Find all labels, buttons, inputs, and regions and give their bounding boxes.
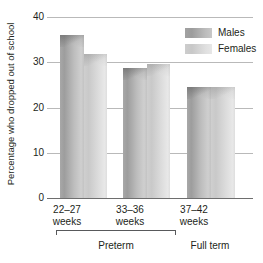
x-axis-label-line2: weeks bbox=[101, 216, 159, 228]
x-axis-label-37-42-weeks: 37–42 weeks bbox=[165, 204, 223, 228]
y-tick-label-20: 20 bbox=[4, 103, 44, 113]
group-label-preterm: Preterm bbox=[86, 240, 146, 252]
y-tick-label-40: 40 bbox=[4, 12, 44, 22]
x-axis-baseline bbox=[47, 198, 253, 199]
y-tick-label-10: 10 bbox=[4, 148, 44, 158]
bar-males-22-27-weeks bbox=[60, 35, 84, 198]
x-axis-label-line1: 22–27 bbox=[38, 204, 96, 216]
y-tick-label-30: 30 bbox=[4, 57, 44, 67]
legend-item-males: Males bbox=[185, 25, 263, 41]
bar-top-shading bbox=[84, 54, 107, 66]
bar-top-shading bbox=[211, 87, 235, 99]
x-axis-label-line2: weeks bbox=[165, 216, 223, 228]
bar-females-33-36-weeks bbox=[147, 64, 170, 198]
x-axis-label-line2: weeks bbox=[38, 216, 96, 228]
legend-item-females: Females bbox=[185, 41, 263, 57]
bar-females-37-42-weeks bbox=[211, 87, 235, 198]
bar-males-33-36-weeks bbox=[123, 68, 147, 198]
legend-label-females: Females bbox=[218, 41, 256, 57]
x-axis-label-22-27-weeks: 22–27 weeks bbox=[38, 204, 96, 228]
bar-males-37-42-weeks bbox=[187, 87, 211, 198]
legend: Males Females bbox=[185, 25, 263, 57]
x-axis-label-line1: 33–36 bbox=[101, 204, 159, 216]
legend-swatch-females-icon bbox=[185, 44, 212, 54]
group-label-full-term: Full term bbox=[180, 240, 240, 252]
legend-swatch-males-icon bbox=[185, 28, 212, 38]
bar-females-22-27-weeks bbox=[84, 54, 107, 198]
y-tick-label-0: 0 bbox=[4, 193, 44, 203]
y-axis-ticks: 40 30 20 10 0 bbox=[0, 17, 44, 199]
bar-top-shading bbox=[60, 35, 84, 47]
bar-top-shading bbox=[187, 87, 211, 99]
gridline-40 bbox=[47, 17, 253, 18]
bar-top-shading bbox=[147, 64, 170, 76]
bar-top-shading bbox=[123, 68, 147, 80]
group-bracket-preterm bbox=[56, 230, 176, 235]
x-axis-label-line1: 37–42 bbox=[165, 204, 223, 216]
bar-chart: Percentage who dropped out of school 40 … bbox=[0, 0, 263, 263]
legend-label-males: Males bbox=[218, 25, 245, 41]
x-axis-label-33-36-weeks: 33–36 weeks bbox=[101, 204, 159, 228]
